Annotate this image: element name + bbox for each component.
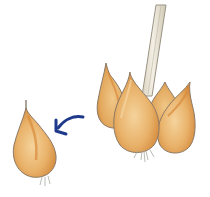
stem-icon bbox=[142, 5, 166, 96]
curved-arrow-left-icon bbox=[56, 117, 83, 134]
offset-bulb-roots-icon bbox=[40, 176, 50, 186]
roots-icon bbox=[134, 150, 154, 162]
offset-bulb-icon bbox=[13, 100, 56, 186]
illustration: Bulb cluster on a stem with a single off… bbox=[0, 0, 210, 197]
illustration-svg bbox=[0, 0, 210, 197]
